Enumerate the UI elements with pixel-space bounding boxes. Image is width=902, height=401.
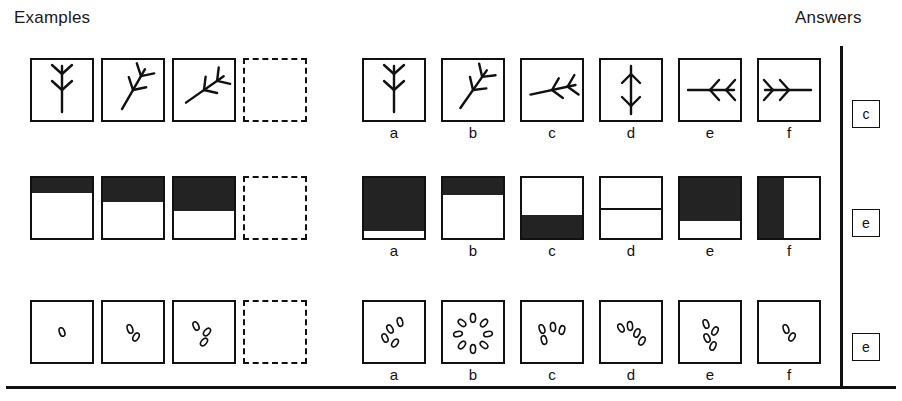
branch-tilted-75 bbox=[522, 60, 582, 120]
option-cell-row-shading-f[interactable] bbox=[757, 176, 821, 240]
option-label-row-ovals-f: f bbox=[757, 366, 821, 383]
example-cell-row-ovals-4 bbox=[243, 300, 307, 364]
option-label-row-ovals-a: a bbox=[362, 366, 426, 383]
ovals-count-2 bbox=[103, 302, 163, 362]
answer-key-row-ovals: e bbox=[852, 333, 880, 361]
option-label-row-shading-d: d bbox=[599, 242, 663, 259]
option-cell-row-ovals-d[interactable] bbox=[599, 300, 663, 364]
option-cell-row-branch-c[interactable] bbox=[520, 58, 584, 122]
option-label-row-shading-a: a bbox=[362, 242, 426, 259]
shaded-area bbox=[680, 178, 740, 221]
shaded-area bbox=[103, 178, 163, 202]
ovals-count-4-cluster bbox=[680, 302, 740, 362]
option-label-row-ovals-b: b bbox=[441, 366, 505, 383]
option-cell-row-branch-a[interactable] bbox=[362, 58, 426, 122]
option-cell-row-shading-b[interactable] bbox=[441, 176, 505, 240]
ovals-count-4-diagonal bbox=[364, 302, 424, 362]
answer-key-row-branch: c bbox=[852, 100, 880, 128]
branch-tilted-more bbox=[174, 60, 234, 120]
example-cell-row-branch-3 bbox=[172, 58, 236, 122]
option-cell-row-ovals-c[interactable] bbox=[520, 300, 584, 364]
examples-heading: Examples bbox=[14, 8, 90, 28]
branch-horizontal-left bbox=[680, 60, 740, 120]
option-cell-row-shading-e[interactable] bbox=[678, 176, 742, 240]
example-cell-row-shading-3 bbox=[172, 176, 236, 240]
ovals-count-4-arc bbox=[522, 302, 582, 362]
shaded-area bbox=[443, 178, 503, 195]
example-cell-row-shading-2 bbox=[101, 176, 165, 240]
branch-double-arrow-up bbox=[601, 60, 661, 120]
ovals-count-2 bbox=[759, 302, 819, 362]
branch-up-vertical bbox=[364, 60, 424, 120]
ovals-count-8-ring bbox=[443, 302, 503, 362]
option-cell-row-ovals-a[interactable] bbox=[362, 300, 426, 364]
option-label-row-ovals-e: e bbox=[678, 366, 742, 383]
option-label-row-shading-e: e bbox=[678, 242, 742, 259]
option-cell-row-branch-f[interactable] bbox=[757, 58, 821, 122]
answer-key-row-shading: e bbox=[852, 209, 880, 237]
example-cell-row-shading-1 bbox=[30, 176, 94, 240]
option-cell-row-branch-e[interactable] bbox=[678, 58, 742, 122]
option-label-row-shading-f: f bbox=[757, 242, 821, 259]
example-cell-row-ovals-2 bbox=[101, 300, 165, 364]
option-cell-row-ovals-e[interactable] bbox=[678, 300, 742, 364]
option-cell-row-ovals-f[interactable] bbox=[757, 300, 821, 364]
ovals-count-1 bbox=[32, 302, 92, 362]
option-cell-row-shading-d[interactable] bbox=[599, 176, 663, 240]
option-label-row-ovals-d: d bbox=[599, 366, 663, 383]
shaded-area bbox=[32, 178, 92, 193]
option-label-row-branch-e: e bbox=[678, 124, 742, 141]
divider-line bbox=[601, 208, 661, 210]
shaded-area bbox=[759, 178, 784, 238]
option-label-row-branch-f: f bbox=[757, 124, 821, 141]
option-label-row-shading-c: c bbox=[520, 242, 584, 259]
option-label-row-branch-b: b bbox=[441, 124, 505, 141]
option-label-row-shading-b: b bbox=[441, 242, 505, 259]
example-cell-row-branch-1 bbox=[30, 58, 94, 122]
answers-heading: Answers bbox=[795, 8, 862, 28]
shaded-area bbox=[522, 215, 582, 238]
option-cell-row-shading-c[interactable] bbox=[520, 176, 584, 240]
branch-tilted-30 bbox=[443, 60, 503, 120]
ovals-count-3 bbox=[174, 302, 234, 362]
example-cell-row-shading-4 bbox=[243, 176, 307, 240]
option-cell-row-shading-a[interactable] bbox=[362, 176, 426, 240]
shaded-area bbox=[364, 178, 424, 231]
option-label-row-branch-c: c bbox=[520, 124, 584, 141]
test-sheet: Examples Answers abcdefcabcdefeabcdefe bbox=[0, 0, 902, 401]
option-label-row-ovals-c: c bbox=[520, 366, 584, 383]
example-cell-row-ovals-1 bbox=[30, 300, 94, 364]
option-label-row-branch-d: d bbox=[599, 124, 663, 141]
option-cell-row-branch-b[interactable] bbox=[441, 58, 505, 122]
option-cell-row-branch-d[interactable] bbox=[599, 58, 663, 122]
example-cell-row-branch-2 bbox=[101, 58, 165, 122]
option-cell-row-ovals-b[interactable] bbox=[441, 300, 505, 364]
ovals-count-4-fan bbox=[601, 302, 661, 362]
answers-divider bbox=[840, 46, 843, 389]
branch-tilted-left bbox=[103, 60, 163, 120]
shaded-area bbox=[174, 178, 234, 211]
option-label-row-branch-a: a bbox=[362, 124, 426, 141]
example-cell-row-branch-4 bbox=[243, 58, 307, 122]
branch-up-vertical bbox=[32, 60, 92, 120]
bottom-rule bbox=[6, 386, 896, 389]
example-cell-row-ovals-3 bbox=[172, 300, 236, 364]
branch-horizontal-right bbox=[759, 60, 819, 120]
